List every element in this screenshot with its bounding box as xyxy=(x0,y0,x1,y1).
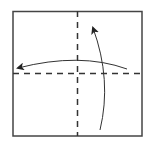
paper-square xyxy=(13,12,142,137)
diagram-canvas xyxy=(0,0,152,147)
fold-up-arrow-icon xyxy=(93,28,105,130)
origami-diagram xyxy=(0,0,152,147)
fold-left-arrow-icon xyxy=(18,60,127,69)
